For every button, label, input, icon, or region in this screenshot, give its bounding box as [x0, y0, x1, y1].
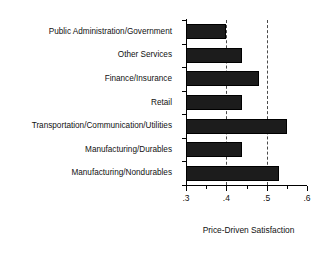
x-axis-title: Price-Driven Satisfaction: [175, 225, 322, 235]
x-axis-tick-minor: [206, 186, 207, 189]
bar: [186, 48, 242, 63]
bar: [186, 95, 242, 110]
category-label: Finance/Insurance: [0, 74, 172, 83]
category-label: Manufacturing/Durables: [0, 145, 172, 154]
bar: [186, 142, 242, 157]
y-axis-tick: [182, 114, 187, 115]
x-axis-tick-major: [186, 186, 187, 191]
x-axis-tick-label: .3: [174, 193, 198, 203]
bar: [186, 166, 279, 181]
x-axis-tick-major: [267, 186, 268, 191]
category-label: Transportation/Communication/Utilities: [0, 121, 172, 130]
category-label: Other Services: [0, 50, 172, 59]
bar-chart: Public Administration/GovernmentOther Se…: [0, 0, 322, 253]
category-label: Manufacturing/Nondurables: [0, 168, 172, 177]
bar: [186, 119, 287, 134]
x-axis-tick-minor: [247, 186, 248, 189]
x-axis-tick-label: .6: [295, 193, 319, 203]
category-label: Retail: [0, 98, 172, 107]
y-axis-tick: [182, 91, 187, 92]
category-axis-labels: Public Administration/GovernmentOther Se…: [0, 20, 180, 185]
bar: [186, 71, 259, 86]
y-axis-tick: [182, 138, 187, 139]
y-axis-tick: [182, 161, 187, 162]
gridline: [267, 20, 268, 185]
plot-area: [186, 20, 307, 185]
bar: [186, 24, 226, 39]
x-axis-tick-label: .5: [255, 193, 279, 203]
y-axis-tick: [182, 67, 187, 68]
y-axis-tick: [182, 44, 187, 45]
y-axis-tick: [182, 20, 187, 21]
x-axis-tick-major: [307, 186, 308, 191]
x-axis-tick-minor: [287, 186, 288, 189]
x-axis-tick-major: [226, 186, 227, 191]
x-axis-tick-label: .4: [214, 193, 238, 203]
category-label: Public Administration/Government: [0, 27, 172, 36]
